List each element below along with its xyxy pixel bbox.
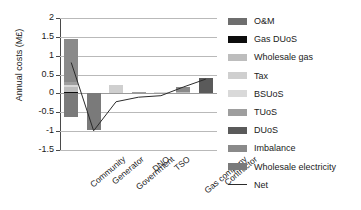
legend-item[interactable]: Tax (228, 67, 360, 85)
legend-item[interactable]: Wholesale gas (228, 48, 360, 66)
gridline (60, 150, 217, 151)
legend-item[interactable]: Net (228, 176, 360, 194)
y-axis-tick-label: 1 (18, 50, 54, 60)
legend-item-label: DUoS (254, 125, 278, 135)
legend-item[interactable]: O&M (228, 12, 360, 30)
y-axis-tick-label: -1 (18, 125, 54, 135)
legend-color-swatch (228, 163, 247, 170)
y-axis-title: Annual costs (M£) (14, 10, 24, 120)
legend-item-label: Net (254, 180, 268, 190)
legend-color-swatch (228, 109, 247, 116)
legend-color-swatch (228, 90, 247, 97)
net-line-series (60, 18, 217, 150)
legend-item[interactable]: BSUoS (228, 85, 360, 103)
legend-color-swatch (228, 72, 247, 79)
y-axis-tick-label: 0.5 (18, 69, 54, 79)
y-axis-tick (56, 150, 60, 151)
legend-item-label: Tax (254, 71, 268, 81)
legend-item[interactable]: Imbalance (228, 139, 360, 157)
legend-item-label: Wholesale gas (254, 52, 313, 62)
legend-item-label: BSUoS (254, 89, 284, 99)
legend-color-swatch (228, 18, 247, 25)
legend-item-label: TUoS (254, 107, 277, 117)
legend-item-label: O&M (254, 16, 275, 26)
legend-item-label: Imbalance (254, 143, 296, 153)
legend-color-swatch (228, 145, 247, 152)
y-axis-tick-label: 1.5 (18, 31, 54, 41)
legend-item[interactable]: DUoS (228, 121, 360, 139)
legend-color-swatch (228, 54, 247, 61)
legend-item[interactable]: Gas DUoS (228, 30, 360, 48)
legend-color-swatch (228, 127, 247, 134)
y-axis-tick-label: 0 (18, 87, 54, 97)
chart-figure: Annual costs (M£) 21.510.50-0.5-1-1.5 Co… (0, 0, 361, 210)
y-axis-tick-label: -0.5 (18, 106, 54, 116)
y-axis-tick-label: 2 (18, 12, 54, 22)
plot-area: 21.510.50-0.5-1-1.5 (60, 18, 217, 150)
legend-item-label: Wholesale electricity (254, 162, 336, 172)
legend-item[interactable]: TUoS (228, 103, 360, 121)
y-axis-tick-label: -1.5 (18, 144, 54, 154)
legend-item-label: Gas DUoS (254, 34, 297, 44)
legend-item[interactable]: Wholesale electricity (228, 158, 360, 176)
x-axis-label: TSO (172, 154, 192, 173)
legend-line-swatch (228, 181, 247, 188)
chart-legend: O&MGas DUoSWholesale gasTaxBSUoSTUoSDUoS… (228, 12, 360, 194)
legend-color-swatch (228, 36, 247, 43)
